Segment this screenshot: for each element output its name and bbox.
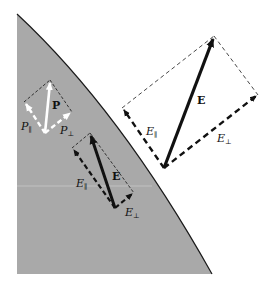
label-E-outer-parallel: E∥ xyxy=(145,125,157,139)
dielectric-region xyxy=(17,14,212,274)
label-E-inner: E xyxy=(112,170,120,183)
label-P: P xyxy=(52,99,60,112)
outer-field-diagram xyxy=(122,36,258,168)
label-E-outer-perp: E⊥ xyxy=(216,132,232,146)
label-E-outer: E xyxy=(197,94,205,107)
diagram-canvas: P P∥ P⊥ E E∥ E⊥ E E∥ E⊥ xyxy=(0,0,275,288)
